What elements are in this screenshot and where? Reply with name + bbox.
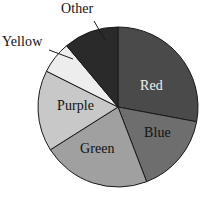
pie-slice-label-purple: Purple (57, 99, 94, 113)
pie-chart-figure: Red Blue Green Purple Other Yellow (0, 0, 208, 197)
pie-callout-label-yellow: Yellow (2, 35, 42, 49)
pie-slice-label-red: Red (140, 79, 163, 93)
pie-slice-label-blue: Blue (144, 126, 171, 140)
pie-slice-label-green: Green (80, 142, 115, 156)
pie-chart-svg (0, 0, 208, 197)
pie-callout-label-other: Other (61, 2, 93, 16)
pie-slice-red (118, 27, 198, 122)
